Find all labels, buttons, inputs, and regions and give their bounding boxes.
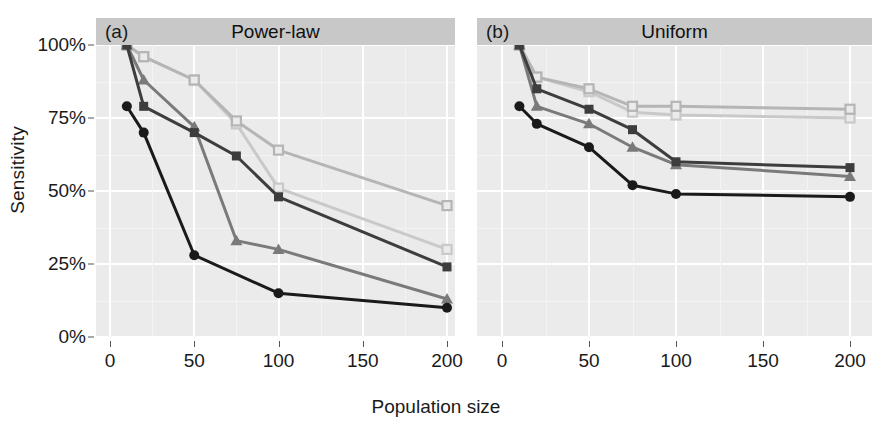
y-axis-tick-label: 0% [24,326,86,348]
x-axis-tick-mark [279,341,280,347]
series-line [519,106,850,197]
marker-square [232,151,241,160]
series-line [127,106,447,307]
marker-open-square [443,201,452,210]
marker-square [274,192,283,201]
x-axis-tick-label: 200 [834,350,866,372]
marker-square [515,45,524,50]
y-axis-tick-label: 25% [24,253,86,275]
x-axis-tick-mark [194,341,195,347]
marker-open-square [190,76,199,85]
marker-open-square [585,84,594,93]
series-layer [96,45,455,337]
figure-root: Sensitivity 0%25%50%75%100% (a) Power-la… [0,0,872,436]
x-axis-tick-label: 100 [263,350,295,372]
x-axis-tick-label: 50 [578,350,599,372]
marker-open-square [443,245,452,254]
marker-open-square [672,102,681,111]
panel-a-plot-area [96,45,455,337]
panel-a-tag: (a) [105,21,128,43]
marker-circle [532,119,542,129]
panel-b-tag: (b) [486,21,509,43]
series-black-circle [122,101,452,312]
marker-triangle [138,74,150,85]
marker-open-square [628,102,637,111]
marker-square [846,163,855,172]
y-axis-tick-mark [88,191,94,192]
y-axis-tick-labels: 0%25%50%75%100% [24,0,86,436]
marker-square [443,262,452,271]
x-axis-tick-mark [447,341,448,347]
marker-circle [671,189,681,199]
x-axis-tick-mark [502,341,503,347]
series-light-open-square [122,45,451,210]
marker-open-square [139,52,148,61]
x-axis-tick-mark [363,341,364,347]
x-axis-tick-label: 150 [747,350,779,372]
series-layer [477,45,872,337]
series-gray-triangle [513,45,856,181]
x-axis-tick-mark [763,341,764,347]
y-axis-tick-label: 75% [24,107,86,129]
marker-square [628,125,637,134]
marker-open-square [274,146,283,155]
series-line [519,45,850,109]
marker-circle [274,288,284,298]
marker-triangle [230,235,242,246]
marker-circle [514,101,524,111]
series-lighter-open-square [122,45,451,254]
marker-open-square [846,114,855,123]
panel-b-title: Uniform [477,21,872,43]
x-axis-tick-mark [850,341,851,347]
x-axis-title: Population size [0,396,872,418]
marker-triangle [531,100,543,111]
x-axis-tick-label: 0 [105,350,116,372]
series-dark-square [122,45,451,271]
y-axis-tick-label: 50% [24,180,86,202]
x-axis-tick-mark [589,341,590,347]
marker-square [532,84,541,93]
x-axis-tick-label: 50 [184,350,205,372]
marker-open-square [846,105,855,114]
panel-b-strip: (b) Uniform [477,18,872,45]
marker-square [139,102,148,111]
marker-square [190,128,199,137]
panel-a-title: Power-law [96,21,455,43]
marker-circle [845,192,855,202]
y-axis-tick-mark [88,264,94,265]
series-line [127,45,447,299]
y-axis-tick-label: 100% [24,34,86,56]
marker-circle [122,101,132,111]
marker-circle [584,142,594,152]
marker-square [122,45,131,50]
series-line [127,45,447,206]
marker-open-square [232,116,241,125]
x-axis-tick-label: 150 [347,350,379,372]
series-line [127,45,447,267]
marker-square [585,105,594,114]
marker-open-square [672,111,681,120]
marker-circle [189,250,199,260]
x-axis-tick-mark [676,341,677,347]
x-axis-tick-label: 100 [660,350,692,372]
marker-circle [442,303,452,313]
x-axis-tick-label: 0 [497,350,508,372]
y-axis-tick-mark [88,45,94,46]
marker-circle [139,128,149,138]
panel-b-plot-area [477,45,872,337]
series-line [127,45,447,249]
x-axis-tick-label: 200 [431,350,463,372]
series-light-open-square [515,45,855,114]
marker-circle [628,180,638,190]
marker-square [672,157,681,166]
panel-a-strip: (a) Power-law [96,18,455,45]
marker-open-square [274,184,283,193]
series-gray-triangle [121,45,453,304]
y-axis-tick-mark [88,118,94,119]
x-axis-tick-mark [110,341,111,347]
y-axis-tick-mark [88,337,94,338]
series-line [519,45,850,176]
